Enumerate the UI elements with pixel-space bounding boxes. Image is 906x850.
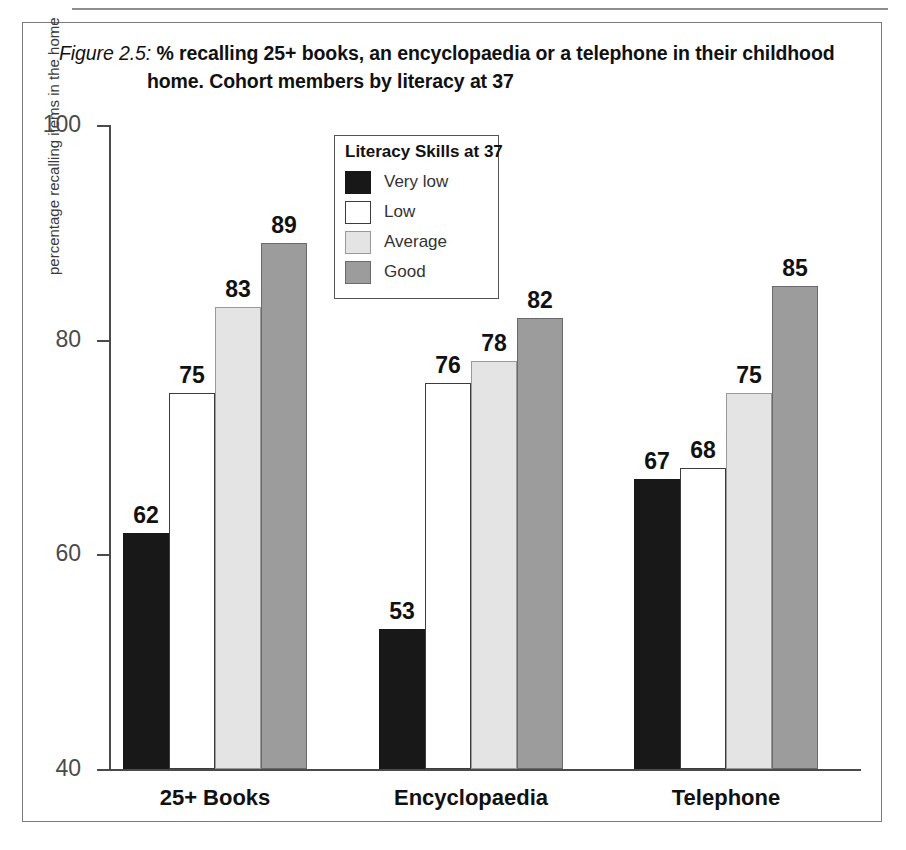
y-axis-tick-label: 40 <box>55 755 81 782</box>
bar-encyclopaedia-average: 78 <box>471 361 517 769</box>
bar-value-label: 82 <box>527 287 553 314</box>
legend-swatch-icon <box>345 201 371 224</box>
y-axis-tick-label: 80 <box>55 326 81 353</box>
legend-title: Literacy Skills at 37 <box>345 142 490 162</box>
legend-rows: Very lowLowAverageGood <box>345 167 490 287</box>
bar-value-label: 75 <box>736 362 762 389</box>
y-axis-tick: 80 <box>97 340 111 342</box>
legend-swatch-icon <box>345 231 371 254</box>
bar-25-books-average: 83 <box>215 307 261 769</box>
figure-title-line1: % recalling 25+ books, an encyclopaedia … <box>151 42 834 64</box>
bar-telephone-very-low: 67 <box>634 479 680 769</box>
bar-value-label: 62 <box>133 502 159 529</box>
bar-value-label: 89 <box>271 212 297 239</box>
legend-item-label: Low <box>384 202 415 222</box>
figure-title: Figure 2.5: % recalling 25+ books, an en… <box>59 39 849 95</box>
legend-item-good: Good <box>345 257 490 287</box>
bar-value-label: 85 <box>782 255 808 282</box>
legend-item-low: Low <box>345 197 490 227</box>
legend-swatch-icon <box>345 261 371 284</box>
bar-value-label: 83 <box>225 276 251 303</box>
bar-encyclopaedia-low: 76 <box>425 383 471 769</box>
y-axis-tick: 60 <box>97 554 111 556</box>
bar-value-label: 67 <box>644 448 670 475</box>
figure-title-line2: home. Cohort members by literacy at 37 <box>59 67 849 95</box>
legend-item-label: Average <box>384 232 447 252</box>
figure-frame: Figure 2.5: % recalling 25+ books, an en… <box>22 22 882 822</box>
category-label-encyclopaedia: Encyclopaedia <box>394 785 548 811</box>
bar-value-label: 53 <box>389 598 415 625</box>
bar-value-label: 78 <box>481 330 507 357</box>
y-axis-tick-label: 100 <box>43 111 81 138</box>
bar-25-books-good: 89 <box>261 243 307 769</box>
bar-telephone-low: 68 <box>680 468 726 769</box>
bar-value-label: 75 <box>179 362 205 389</box>
y-axis-tick-label: 60 <box>55 540 81 567</box>
figure-number: Figure 2.5: <box>59 42 151 64</box>
bar-25-books-low: 75 <box>169 393 215 769</box>
bar-telephone-average: 75 <box>726 393 772 769</box>
bar-25-books-very-low: 62 <box>123 533 169 769</box>
bar-encyclopaedia-good: 82 <box>517 318 563 769</box>
legend-item-very-low: Very low <box>345 167 490 197</box>
category-label-telephone: Telephone <box>672 785 780 811</box>
x-axis-line <box>109 769 861 771</box>
bar-value-label: 68 <box>690 437 716 464</box>
legend-item-label: Good <box>384 262 426 282</box>
category-label-25-books: 25+ Books <box>160 785 271 811</box>
y-axis-line <box>109 125 111 769</box>
legend-item-label: Very low <box>384 172 448 192</box>
legend-item-average: Average <box>345 227 490 257</box>
bar-encyclopaedia-very-low: 53 <box>379 629 425 769</box>
y-axis-tick: 40 <box>97 769 111 771</box>
top-divider-rule <box>72 8 888 10</box>
legend-swatch-icon <box>345 171 371 194</box>
chart-legend: Literacy Skills at 37 Very lowLowAverage… <box>334 135 499 299</box>
bar-telephone-good: 85 <box>772 286 818 769</box>
bar-value-label: 76 <box>435 352 461 379</box>
y-axis-tick: 100 <box>97 125 111 127</box>
